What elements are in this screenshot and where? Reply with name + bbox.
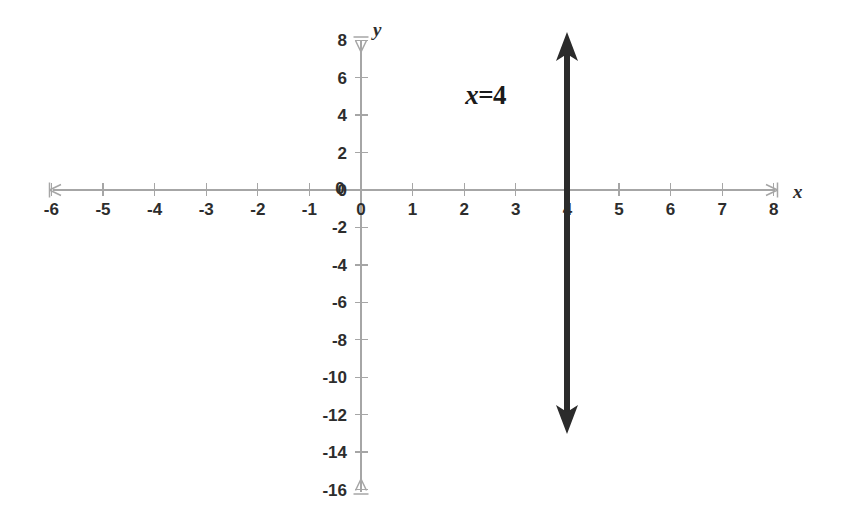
graph-canvas: x y -6-5-4-3-2-112345678086420-2-4-6-8-1…	[0, 0, 841, 522]
x-axis-tick-label: 7	[717, 201, 726, 218]
x-axis-tick	[51, 183, 52, 196]
y-axis-tick-label: -14	[322, 444, 347, 461]
x-axis-tick	[464, 183, 465, 196]
y-axis-tick-label: 6	[338, 69, 347, 86]
y-axis-tick	[355, 152, 368, 153]
y-axis-tick	[355, 264, 368, 265]
x-axis-tick-label: 2	[459, 201, 468, 218]
y-axis-line	[360, 40, 362, 492]
y-axis-tick-label: -2	[332, 219, 347, 236]
y-axis-tick	[355, 451, 368, 452]
x-axis-tick	[618, 183, 619, 196]
y-axis-tick	[355, 77, 368, 78]
x-axis-tick	[515, 183, 516, 196]
y-axis-tick-label: -6	[332, 294, 347, 311]
x-axis-tick	[773, 183, 774, 196]
x-axis-tick-label: 3	[511, 201, 520, 218]
x-axis-tick-label: 8	[769, 201, 778, 218]
x-axis-tick	[412, 183, 413, 196]
x-axis-tick	[102, 183, 103, 196]
y-axis-label: y	[373, 20, 381, 39]
y-axis-tick-label: -8	[332, 331, 347, 348]
x-axis-tick-label: 5	[614, 201, 623, 218]
x-axis-tick	[309, 183, 310, 196]
equation-operator: =	[478, 80, 493, 110]
y-axis-tick-label: -10	[322, 369, 347, 386]
x-axis-tick-label: -4	[147, 201, 162, 218]
x-axis-tick-label: -3	[199, 201, 214, 218]
origin-axis-zero-label: 0	[335, 180, 344, 197]
y-axis-tick	[355, 114, 368, 115]
x-axis-tick-label: -6	[44, 201, 59, 218]
vertical-line-down-arrowhead-icon	[547, 401, 587, 435]
x-axis-tick	[722, 183, 723, 196]
x-axis-tick-label: -2	[250, 201, 265, 218]
x-axis-tick	[670, 183, 671, 196]
y-axis-tick-label: -16	[322, 481, 347, 498]
y-axis-tick-label: 8	[338, 32, 347, 49]
x-axis-label: x	[793, 182, 803, 201]
y-axis-tick	[355, 339, 368, 340]
equation-variable: x	[465, 80, 478, 110]
y-axis-tick	[355, 227, 368, 228]
y-axis-tick	[355, 414, 368, 415]
x-axis-right-arrow-icon	[760, 180, 782, 200]
x-axis-tick-label: -1	[302, 201, 317, 218]
y-axis-up-arrow-icon	[351, 33, 371, 55]
equation-value: 4	[493, 80, 506, 110]
y-axis-tick-label: 2	[338, 144, 347, 161]
x-axis-origin-label: 0	[356, 201, 365, 218]
y-axis-tick-label: -4	[332, 256, 347, 273]
x-axis-line	[53, 189, 775, 191]
y-axis-tick	[355, 489, 368, 490]
y-axis-tick	[355, 40, 368, 41]
x-axis-tick-label: 1	[408, 201, 417, 218]
equation-annotation: x=4	[465, 82, 506, 109]
x-axis-tick	[257, 183, 258, 196]
y-axis-down-arrow-icon	[351, 476, 371, 498]
vertical-line-up-arrowhead-icon	[547, 31, 587, 65]
y-axis-tick	[355, 377, 368, 378]
x-axis-tick	[360, 183, 361, 196]
y-axis-tick-label: 4	[338, 107, 347, 124]
x-axis-tick	[206, 183, 207, 196]
y-axis-tick	[355, 302, 368, 303]
x-axis-tick	[154, 183, 155, 196]
x-axis-tick-label: -5	[95, 201, 110, 218]
vertical-line-x-equals-4	[564, 51, 570, 414]
y-axis-tick-label: -12	[322, 406, 347, 423]
x-axis-tick-label: 6	[666, 201, 675, 218]
